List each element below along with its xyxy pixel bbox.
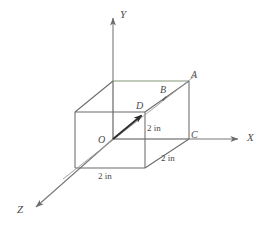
- vertex-label-c: C: [191, 130, 198, 140]
- axis-label-z: Z: [17, 204, 23, 215]
- axis-label-x: X: [247, 132, 254, 143]
- axis-label-y: Y: [120, 9, 126, 20]
- vertex-label-o: O: [98, 135, 105, 145]
- space-diagonal-line: [63, 75, 196, 179]
- space-diagonal-group: [63, 75, 196, 179]
- vector-od-arrow[interactable]: [113, 116, 142, 140]
- cube-edge-top-left-receding: [75, 81, 113, 112]
- diagram-canvas: [0, 0, 277, 232]
- cube-diagram-figure: Y X Z O A B C D 2 in 2 in 2 in: [0, 0, 277, 232]
- dimension-label-bottom-right: 2 in: [161, 154, 175, 163]
- vertex-label-a: A: [191, 70, 197, 80]
- vector-od-group: [113, 116, 142, 140]
- vertex-label-b: B: [160, 85, 166, 95]
- dimension-label-bottom-front: 2 in: [98, 172, 112, 181]
- vertex-label-d: D: [136, 101, 143, 111]
- dimension-label-vertical: 2 in: [147, 124, 161, 133]
